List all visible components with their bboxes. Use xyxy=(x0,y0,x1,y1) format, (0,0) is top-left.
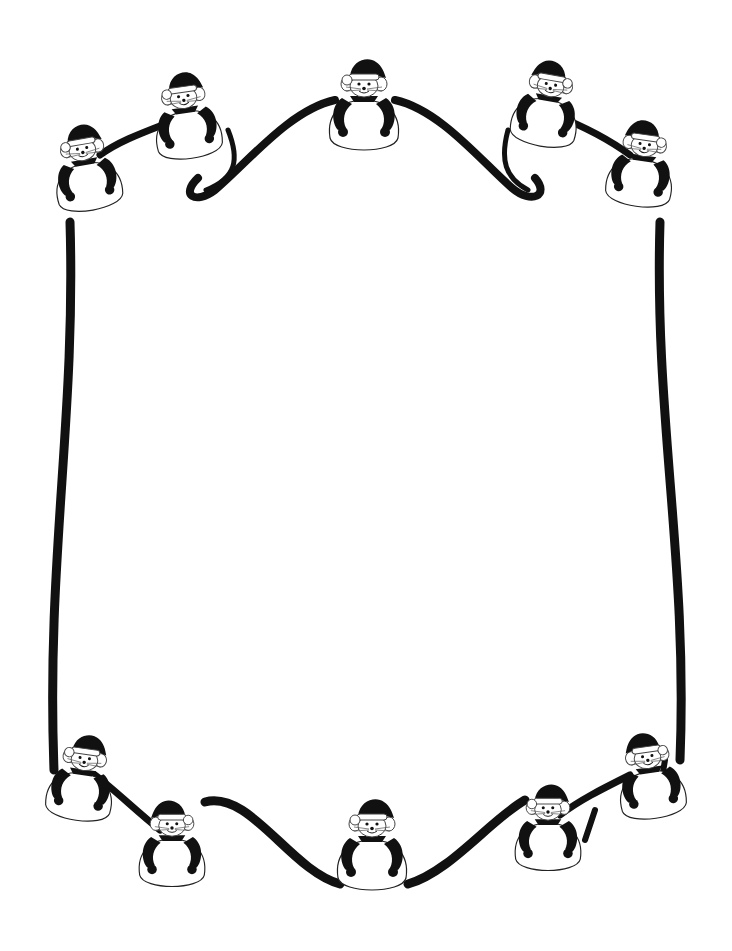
mouse-top-left-1 xyxy=(46,120,126,216)
blank-writing-area xyxy=(110,240,620,710)
mouse-top-right-2 xyxy=(604,116,681,210)
bottom-swag-left xyxy=(205,801,340,884)
left-ribbon xyxy=(53,222,71,770)
mouse-bottom-center xyxy=(337,799,406,890)
mouse-top-right-1 xyxy=(508,56,588,152)
mouse-top-left-2 xyxy=(147,68,224,162)
bottom-swag-right xyxy=(408,800,525,884)
right-ribbon xyxy=(659,222,681,760)
mouse-top-center xyxy=(329,59,398,150)
mouse-bottom-left-2 xyxy=(139,800,205,886)
